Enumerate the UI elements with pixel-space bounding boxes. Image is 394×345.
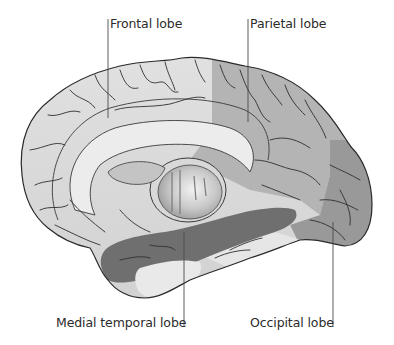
frontal-lobe-label: Frontal lobe (110, 17, 182, 31)
occipital-lobe-label: Occipital lobe (250, 316, 334, 330)
medial-temporal-lobe-label: Medial temporal lobe (56, 316, 186, 330)
thalamus (158, 165, 222, 219)
brain-illustration (0, 0, 394, 345)
brain-diagram: Frontal lobe Parietal lobe Medial tempor… (0, 0, 394, 345)
parietal-lobe-label: Parietal lobe (250, 17, 326, 31)
